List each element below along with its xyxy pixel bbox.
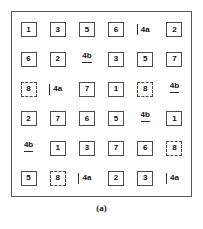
symbol-grid: 13564a2624b35784a7184b27654b14b13768584a… bbox=[12, 12, 191, 196]
solid-box-token: 5 bbox=[79, 22, 95, 37]
grid-cell: 5 bbox=[14, 163, 43, 193]
grid-cell: 1 bbox=[160, 104, 189, 134]
grid-cell: 6 bbox=[131, 134, 160, 164]
solid-box-token: 5 bbox=[108, 111, 124, 126]
grid-cell: 2 bbox=[14, 104, 43, 134]
grid-cell: 4b bbox=[72, 45, 101, 75]
grid-cell: 3 bbox=[43, 15, 72, 45]
grid-cell: 8 bbox=[160, 134, 189, 164]
dashed-box-token: 8 bbox=[166, 141, 182, 156]
grid-cell: 7 bbox=[43, 104, 72, 134]
dashed-box-token: 8 bbox=[50, 171, 66, 186]
grid-cell: 6 bbox=[101, 15, 130, 45]
bar-marked-token: 4a bbox=[166, 173, 179, 184]
grid-cell: 4b bbox=[160, 74, 189, 104]
grid-cell: 1 bbox=[14, 15, 43, 45]
solid-box-token: 1 bbox=[21, 22, 37, 37]
solid-box-token: 3 bbox=[137, 171, 153, 186]
solid-box-token: 5 bbox=[21, 171, 37, 186]
solid-box-token: 7 bbox=[79, 82, 95, 97]
solid-box-token: 6 bbox=[79, 111, 95, 126]
underlined-token: 4b bbox=[141, 111, 150, 122]
grid-cell: 6 bbox=[72, 104, 101, 134]
solid-box-token: 5 bbox=[137, 52, 153, 67]
grid-cell: 5 bbox=[131, 45, 160, 75]
solid-box-token: 3 bbox=[108, 52, 124, 67]
solid-box-token: 2 bbox=[21, 111, 37, 126]
grid-cell: 4b bbox=[131, 104, 160, 134]
grid-cell: 7 bbox=[72, 74, 101, 104]
grid-cell: 4a bbox=[72, 163, 101, 193]
solid-box-token: 3 bbox=[50, 22, 66, 37]
grid-cell: 5 bbox=[72, 15, 101, 45]
grid-cell: 1 bbox=[43, 134, 72, 164]
solid-box-token: 1 bbox=[50, 141, 66, 156]
solid-box-token: 7 bbox=[108, 141, 124, 156]
solid-box-token: 6 bbox=[21, 52, 37, 67]
solid-box-token: 1 bbox=[108, 82, 124, 97]
solid-box-token: 7 bbox=[50, 111, 66, 126]
solid-box-token: 2 bbox=[108, 171, 124, 186]
solid-box-token: 3 bbox=[79, 141, 95, 156]
solid-box-token: 6 bbox=[137, 141, 153, 156]
figure-frame: 13564a2624b35784a7184b27654b14b13768584a… bbox=[11, 11, 192, 197]
grid-cell: 7 bbox=[160, 45, 189, 75]
solid-box-token: 2 bbox=[50, 52, 66, 67]
grid-cell: 6 bbox=[14, 45, 43, 75]
bar-marked-token: 4a bbox=[49, 84, 62, 95]
grid-cell: 4a bbox=[160, 163, 189, 193]
grid-cell: 2 bbox=[160, 15, 189, 45]
grid-cell: 8 bbox=[131, 74, 160, 104]
underlined-token: 4b bbox=[82, 52, 91, 63]
solid-box-token: 7 bbox=[166, 52, 182, 67]
figure-caption: (a) bbox=[0, 203, 203, 213]
grid-cell: 8 bbox=[43, 163, 72, 193]
grid-cell: 2 bbox=[43, 45, 72, 75]
grid-cell: 3 bbox=[131, 163, 160, 193]
dashed-box-token: 8 bbox=[21, 82, 37, 97]
solid-box-token: 2 bbox=[166, 22, 182, 37]
grid-cell: 8 bbox=[14, 74, 43, 104]
grid-cell: 7 bbox=[101, 134, 130, 164]
figure-panel: 13564a2624b35784a7184b27654b14b13768584a… bbox=[0, 0, 203, 229]
grid-cell: 4a bbox=[43, 74, 72, 104]
grid-cell: 3 bbox=[101, 45, 130, 75]
bar-marked-token: 4a bbox=[137, 24, 150, 35]
underlined-token: 4b bbox=[170, 82, 179, 93]
solid-box-token: 6 bbox=[108, 22, 124, 37]
grid-cell: 4b bbox=[14, 134, 43, 164]
grid-cell: 1 bbox=[101, 74, 130, 104]
underlined-token: 4b bbox=[24, 141, 33, 152]
grid-cell: 2 bbox=[101, 163, 130, 193]
dashed-box-token: 8 bbox=[137, 82, 153, 97]
grid-cell: 3 bbox=[72, 134, 101, 164]
solid-box-token: 1 bbox=[166, 111, 182, 126]
grid-cell: 4a bbox=[131, 15, 160, 45]
bar-marked-token: 4a bbox=[78, 173, 91, 184]
grid-cell: 5 bbox=[101, 104, 130, 134]
